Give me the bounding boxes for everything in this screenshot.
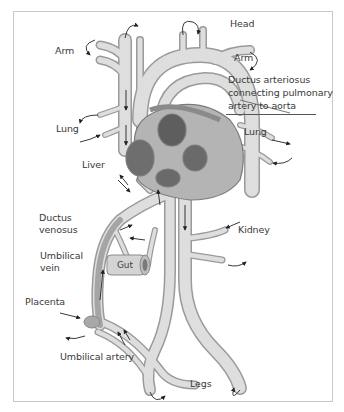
- label-ductus-arteriosus-line2: connecting pulmonary: [228, 87, 333, 99]
- label-umbilical-vein-line2: vein: [40, 262, 60, 274]
- label-lung-right: Lung: [244, 126, 267, 138]
- fetal-circulation-diagram: [0, 0, 344, 412]
- label-kidney: Kidney: [238, 224, 270, 236]
- label-lung-left: Lung: [56, 123, 79, 135]
- label-ductus-venosus-line2: venosus: [39, 224, 78, 236]
- label-head: Head: [230, 18, 254, 30]
- label-liver: Liver: [82, 159, 105, 171]
- label-arm-right: Arm: [234, 52, 253, 64]
- label-ductus-arteriosus-line3: artery to aorta: [228, 100, 296, 112]
- label-legs: Legs: [190, 378, 212, 390]
- label-umbilical-vein-line1: Umbilical: [40, 250, 83, 262]
- label-placenta: Placenta: [25, 296, 65, 308]
- label-ductus-venosus-line1: Ductus: [39, 212, 72, 224]
- label-ductus-arteriosus-line1: Ductus arteriosus: [228, 74, 310, 86]
- label-gut: Gut: [117, 259, 133, 271]
- label-umbilical-artery: Umbilical artery: [60, 351, 134, 363]
- label-arm-left: Arm: [55, 45, 74, 57]
- ductus-arteriosus-underline: [226, 114, 316, 115]
- heart: [126, 104, 243, 200]
